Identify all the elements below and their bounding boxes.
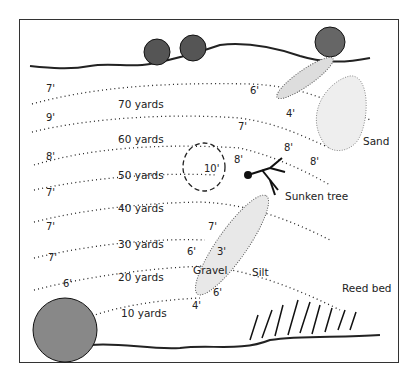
map-illustration xyxy=(0,0,415,381)
depth-left-6: 7' xyxy=(48,253,57,263)
feature-label-sand: Sand xyxy=(363,136,389,147)
feature-label-gravel: Gravel xyxy=(193,265,227,276)
depth-row70-right: 7' xyxy=(238,122,247,132)
depth-left-2: 9' xyxy=(46,113,55,123)
feature-label-sunken-tree: Sunken tree xyxy=(285,191,348,202)
depth-hole: 10' xyxy=(204,164,219,174)
distance-label-70: 70 yards xyxy=(118,99,164,110)
depth-sand-left: 8' xyxy=(284,143,293,153)
distance-label-20: 20 yards xyxy=(118,272,164,283)
depth-gravel-bottom: 6' xyxy=(213,288,222,298)
depth-left-4: 7' xyxy=(46,188,55,198)
gravel-patch xyxy=(185,187,278,303)
depth-left-5: 7' xyxy=(46,222,55,232)
near-bank-bush-icon xyxy=(33,298,97,362)
sunken-tree-icon xyxy=(245,158,285,195)
distance-label-30: 30 yards xyxy=(118,239,164,250)
distance-label-40: 40 yards xyxy=(118,203,164,214)
sand-patch xyxy=(316,76,366,151)
distance-label-50: 50 yards xyxy=(118,170,164,181)
depth-left-7: 6' xyxy=(63,279,72,289)
depth-gravel-top: 3' xyxy=(217,247,226,257)
depth-bar-shallow: 4' xyxy=(286,109,295,119)
depth-left-3: 8' xyxy=(46,152,55,162)
depth-left-1: 7' xyxy=(46,84,55,94)
feature-label-reed-bed: Reed bed xyxy=(342,283,392,294)
near-bank-line xyxy=(90,335,380,348)
depth-near-margin: 4' xyxy=(192,301,201,311)
reed-bed-icon xyxy=(250,300,356,340)
feature-label-silt: Silt xyxy=(252,267,269,278)
depth-bar-top: 6' xyxy=(250,86,259,96)
distance-label-60: 60 yards xyxy=(118,134,164,145)
depth-sand-bottom: 8' xyxy=(310,157,319,167)
depth-gravel-left: 6' xyxy=(187,247,196,257)
depth-tree-left: 8' xyxy=(234,155,243,165)
distance-label-10: 10 yards xyxy=(121,308,167,319)
depth-row40-right: 7' xyxy=(208,222,217,232)
